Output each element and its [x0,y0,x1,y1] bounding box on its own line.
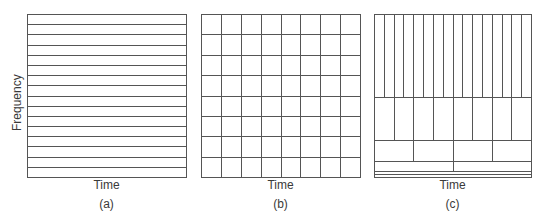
panel-a-frequency-bands [27,15,187,178]
panel-c-wavelet-tiling [374,14,532,178]
panel-b-caption: (b) [201,197,360,211]
panel-a-time-label: Time [27,178,186,192]
frequency-axis-label: Frequency [10,61,24,131]
panel-c-time-label: Time [374,178,531,192]
panel-b-time-label: Time [201,178,360,192]
panel-c-caption: (c) [374,197,531,211]
panel-a-caption: (a) [27,197,186,211]
panel-b-uniform-grid [201,14,361,178]
